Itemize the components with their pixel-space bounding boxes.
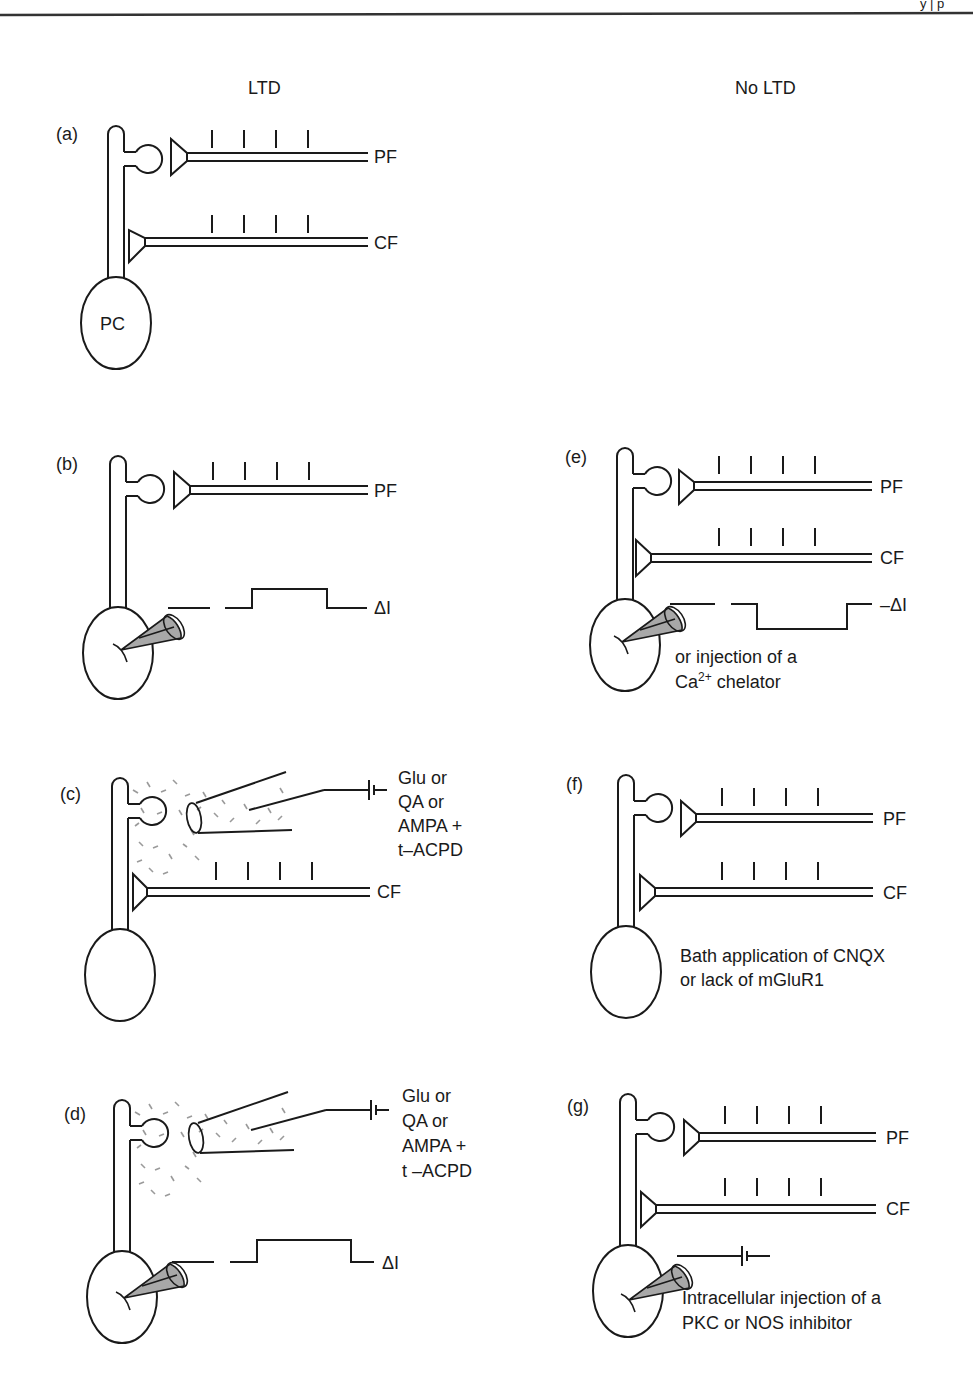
drug-particles-icon	[133, 780, 206, 874]
panel-d: (d) Glu or QA or AMPA + t –ACPD ΔI	[64, 1086, 472, 1343]
ltd-figure: y | p LTD No LTD (a) PC PF CF (b) PF ΔI …	[0, 0, 973, 1384]
fiber-label-pf: PF	[374, 147, 397, 167]
fiber-label-cf: CF	[880, 548, 904, 568]
drug-particles-icon	[135, 1102, 208, 1196]
stimulus-ticks-icon	[212, 215, 308, 233]
column-header-ltd: LTD	[248, 78, 281, 98]
panel-label: (c)	[60, 784, 81, 804]
condition-note-line-1: Intracellular injection of a	[682, 1288, 882, 1308]
drug-line-3: AMPA +	[398, 816, 462, 836]
stimulus-ticks-icon	[213, 462, 309, 480]
fiber-label-cf: CF	[377, 882, 401, 902]
purkinje-cell-icon	[590, 448, 671, 691]
drug-pipette-icon	[187, 1092, 389, 1154]
fiber-label-pf: PF	[886, 1128, 909, 1148]
parallel-fiber-icon	[171, 139, 341, 175]
drug-pipette-icon	[185, 772, 387, 834]
panel-label: (g)	[567, 1096, 589, 1116]
stimulus-ticks-icon	[722, 862, 818, 880]
drug-line-4: t –ACPD	[402, 1161, 472, 1181]
condition-note-line-2: Ca2+ chelator	[675, 670, 781, 692]
drug-line-2: QA or	[402, 1111, 448, 1131]
fiber-label-pf: PF	[883, 809, 906, 829]
page-header-rule	[0, 13, 973, 15]
current-label: ΔI	[382, 1253, 399, 1273]
purkinje-cell-icon	[85, 778, 166, 1021]
purkinje-cell-icon	[87, 1100, 168, 1343]
panel-a: (a) PC PF CF	[56, 124, 398, 369]
stimulus-ticks-icon	[719, 528, 815, 546]
drug-line-4: t–ACPD	[398, 840, 463, 860]
stimulus-ticks-icon	[216, 862, 312, 880]
current-label: –ΔI	[880, 595, 907, 615]
drug-line-1: Glu or	[402, 1086, 451, 1106]
current-step-trace	[230, 1240, 374, 1262]
condition-note-line-2: or lack of mGluR1	[680, 970, 824, 990]
page-header-fragment: y | p	[920, 0, 944, 11]
panel-label: (b)	[56, 454, 78, 474]
stimulus-ticks-icon	[212, 130, 308, 148]
fiber-label-cf: CF	[883, 883, 907, 903]
stimulus-ticks-icon	[725, 1178, 821, 1196]
drug-line-3: AMPA +	[402, 1136, 466, 1156]
panel-label: (d)	[64, 1104, 86, 1124]
note-chelator: chelator	[712, 672, 781, 692]
fiber-label-pf: PF	[374, 481, 397, 501]
drug-line-1: Glu or	[398, 768, 447, 788]
current-label: ΔI	[374, 598, 391, 618]
panel-label: (e)	[565, 447, 587, 467]
stimulus-ticks-icon	[722, 788, 818, 806]
condition-note-line-1: Bath application of CNQX	[680, 946, 885, 966]
stimulus-ticks-icon	[725, 1106, 821, 1124]
stimulus-ticks-icon	[719, 456, 815, 474]
panel-label: (a)	[56, 124, 78, 144]
purkinje-cell-icon	[593, 1094, 674, 1337]
drug-line-2: QA or	[398, 792, 444, 812]
note-ca: Ca	[675, 672, 699, 692]
panel-g: (g) PF CF Intracellular injection of a P…	[567, 1094, 910, 1337]
condition-note-line-2: PKC or NOS inhibitor	[682, 1313, 852, 1333]
panel-label: (f)	[566, 774, 583, 794]
parallel-fiber-icon	[174, 472, 344, 508]
current-step-trace	[225, 589, 367, 608]
note-superscript: 2+	[698, 670, 712, 684]
fiber-label-cf: CF	[886, 1199, 910, 1219]
soma-label: PC	[100, 314, 125, 334]
panel-e: (e) PF CF –ΔI or injection of a Ca2+ che…	[565, 447, 907, 692]
fiber-label-pf: PF	[880, 477, 903, 497]
panel-c: (c) Glu or QA or AMPA + t–ACPD CF	[60, 768, 463, 1021]
panel-b: (b) PF ΔI	[56, 454, 397, 699]
current-step-trace	[731, 604, 872, 629]
purkinje-cell-icon	[83, 456, 164, 699]
panel-f: (f) PF CF Bath application of CNQX or la…	[566, 774, 907, 1018]
fiber-label-cf: CF	[374, 233, 398, 253]
condition-note-line-1: or injection of a	[675, 647, 798, 667]
column-header-no-ltd: No LTD	[735, 78, 796, 98]
